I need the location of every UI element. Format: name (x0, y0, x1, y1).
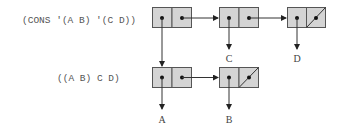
cons-cell-b (220, 68, 259, 88)
cdr-pointer-dot (247, 76, 251, 80)
atom-a: A (158, 114, 166, 125)
atom-c: C (226, 53, 233, 64)
box-pointer-diagram: (CONS '(A B) '(C D)) ((A B) C D) C D A (0, 0, 343, 129)
atom-d: D (293, 53, 300, 64)
input-expression: (CONS '(A B) '(C D)) (22, 15, 136, 26)
cons-cell-d (288, 8, 326, 28)
result-expression: ((A B) C D) (57, 73, 120, 84)
atom-b: B (226, 114, 233, 125)
cdr-pointer-dot (314, 16, 318, 20)
